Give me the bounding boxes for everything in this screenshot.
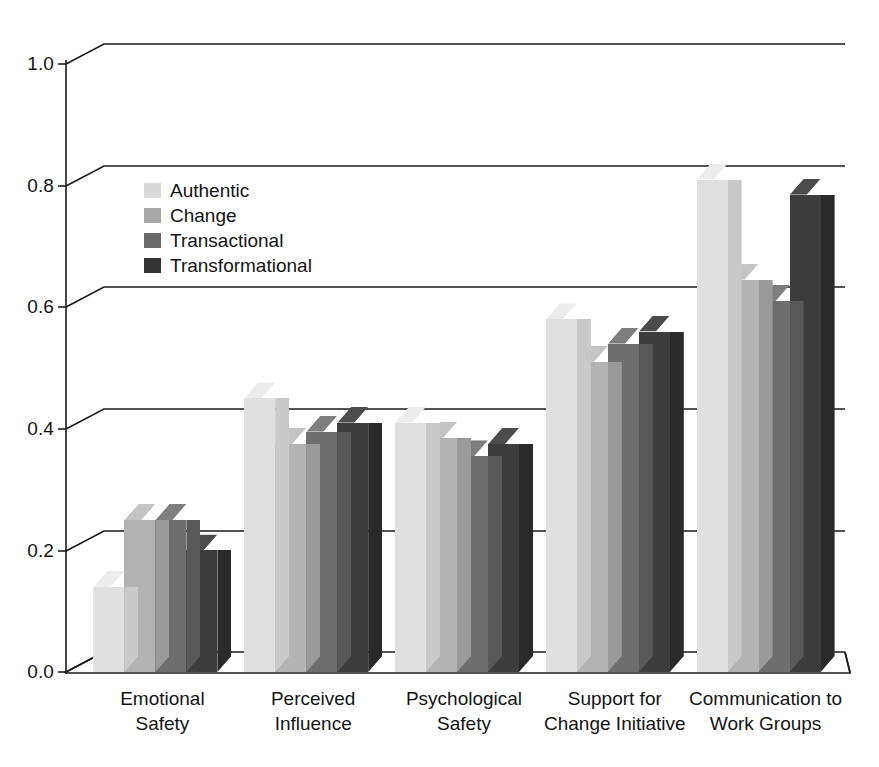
bar-authentic-group2 xyxy=(244,398,275,672)
x-axis-label-line: Work Groups xyxy=(656,711,876,736)
bar-side xyxy=(670,332,684,672)
bar-face xyxy=(93,587,124,672)
bar-authentic-group4 xyxy=(546,319,577,672)
bar-side xyxy=(821,195,835,672)
bar-top xyxy=(697,164,728,180)
bar-side xyxy=(426,423,440,672)
bar-top xyxy=(93,571,124,587)
bar-top xyxy=(395,407,426,423)
bar-top xyxy=(244,382,275,398)
bar-face xyxy=(697,180,728,672)
x-axis-label-line: Communication to xyxy=(656,686,876,711)
bar-top xyxy=(790,179,821,195)
bar-authentic-group1 xyxy=(93,587,124,672)
bar-side xyxy=(155,520,169,672)
bar-top xyxy=(608,328,639,344)
bar-top xyxy=(155,504,186,520)
bar-top xyxy=(306,416,337,432)
legend-swatch-transactional xyxy=(144,233,161,248)
bar-side xyxy=(519,444,533,672)
bars-layer xyxy=(0,0,879,767)
bar-side xyxy=(306,444,320,672)
legend-swatch-change xyxy=(144,208,161,223)
bar-side xyxy=(790,301,804,672)
chart-3d-scene: 1.0 0.8 0.6 0.4 0.2 0.0 Authentic Change… xyxy=(0,0,879,767)
bar-face xyxy=(244,398,275,672)
legend-swatch-transformational xyxy=(144,258,161,273)
legend-item: Change xyxy=(144,203,312,228)
bar-top xyxy=(124,504,155,520)
bar-side xyxy=(608,362,622,672)
bar-side xyxy=(488,456,502,672)
bar-side xyxy=(337,432,351,672)
bar-top xyxy=(488,428,519,444)
bar-authentic-group3 xyxy=(395,423,426,672)
bar-side xyxy=(275,398,289,672)
bar-side xyxy=(759,280,773,672)
bar-top xyxy=(639,316,670,332)
legend-label: Authentic xyxy=(170,180,249,202)
legend-item: Authentic xyxy=(144,178,312,203)
bar-side xyxy=(639,344,653,672)
legend-swatch-authentic xyxy=(144,183,161,198)
bar-authentic-group5 xyxy=(697,180,728,672)
chart-legend: Authentic Change Transactional Transform… xyxy=(144,178,312,278)
bar-top xyxy=(337,407,368,423)
bar-side xyxy=(457,438,471,672)
chart-figure: 1.0 0.8 0.6 0.4 0.2 0.0 Authentic Change… xyxy=(0,0,879,767)
legend-item: Transactional xyxy=(144,228,312,253)
bar-side xyxy=(728,180,742,672)
bar-side xyxy=(217,550,231,672)
bar-face xyxy=(395,423,426,672)
bar-side xyxy=(368,423,382,672)
bar-top xyxy=(546,303,577,319)
legend-item: Transformational xyxy=(144,253,312,278)
legend-label: Transformational xyxy=(170,255,312,277)
bar-side xyxy=(577,319,591,672)
bar-side xyxy=(186,520,200,672)
bar-face xyxy=(546,319,577,672)
x-axis-label-group5: Communication toWork Groups xyxy=(656,686,876,736)
legend-label: Transactional xyxy=(170,230,283,252)
legend-label: Change xyxy=(170,205,237,227)
